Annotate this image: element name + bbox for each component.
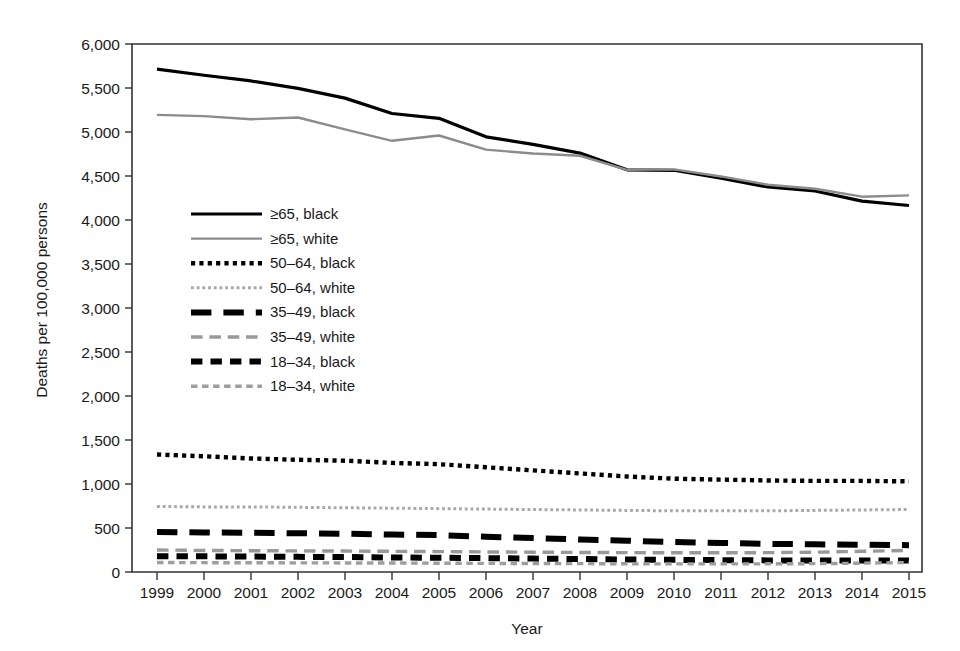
y-tick-label: 2,500 [81, 344, 120, 361]
legend-label-6: 18–34, black [270, 353, 356, 370]
legend-label-0: ≥65, black [270, 205, 339, 222]
series-line-1 [157, 115, 909, 197]
x-tick-label: 2011 [704, 584, 737, 601]
legend-label-7: 18–34, white [270, 377, 355, 394]
y-tick-label: 4,000 [81, 212, 120, 229]
y-tick-label: 0 [111, 564, 120, 581]
x-tick-label: 2002 [281, 584, 315, 601]
y-tick-label: 2,000 [81, 388, 120, 405]
y-tick-label: 1,500 [81, 432, 120, 449]
legend-label-1: ≥65, white [270, 230, 338, 247]
x-tick-label: 2008 [563, 584, 597, 601]
x-tick-label: 2004 [375, 584, 410, 601]
x-tick-label: 2014 [845, 584, 880, 601]
x-tick-label: 2010 [657, 584, 692, 601]
y-axis-title: Deaths per 100,000 persons [33, 202, 50, 398]
x-tick-label: 2006 [469, 584, 503, 601]
series-line-3 [157, 506, 909, 510]
y-tick-label: 1,000 [81, 476, 120, 493]
series-line-6 [157, 556, 909, 560]
x-tick-label: 2005 [422, 584, 456, 601]
y-tick-label: 4,500 [81, 168, 120, 185]
y-tick-label: 5,000 [81, 124, 120, 141]
x-tick-label: 2009 [610, 584, 644, 601]
y-tick-label: 6,000 [81, 36, 120, 53]
y-tick-label: 3,000 [81, 300, 120, 317]
x-tick-label: 2000 [187, 584, 222, 601]
legend-label-5: 35–49, white [270, 328, 355, 345]
chart-figure: 05001,0001,5002,0002,5003,0003,5004,0004… [0, 0, 960, 651]
series-line-2 [157, 455, 909, 482]
x-tick-label: 2012 [751, 584, 785, 601]
x-axis-title: Year [511, 620, 542, 637]
x-tick-label: 2015 [892, 584, 926, 601]
y-tick-label: 500 [94, 520, 120, 537]
legend-label-3: 50–64, white [270, 279, 355, 296]
y-tick-label: 3,500 [81, 256, 120, 273]
x-tick-label: 1999 [140, 584, 174, 601]
axis-ticks-layer: 05001,0001,5002,0002,5003,0003,5004,0004… [81, 36, 926, 602]
x-tick-label: 2007 [516, 584, 550, 601]
series-line-0 [157, 69, 909, 205]
axes-layer [132, 44, 922, 572]
line-chart: 05001,0001,5002,0002,5003,0003,5004,0004… [0, 0, 960, 651]
x-tick-label: 2003 [328, 584, 362, 601]
series-line-4 [157, 532, 909, 545]
legend-label-2: 50–64, black [270, 254, 356, 271]
y-tick-label: 5,500 [81, 80, 120, 97]
series-line-7 [157, 563, 909, 564]
chart-legend: ≥65, black≥65, white50–64, black50–64, w… [191, 205, 356, 394]
series-line-5 [157, 550, 909, 553]
legend-label-4: 35–49, black [270, 303, 356, 320]
x-tick-label: 2001 [234, 584, 268, 601]
x-tick-label: 2013 [798, 584, 832, 601]
